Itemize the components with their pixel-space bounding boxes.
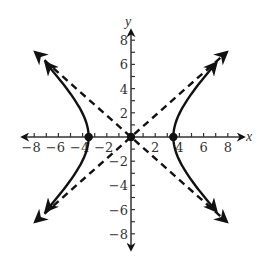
- hyperbola-graph: −8−6−4−224688642−2−4−6−8 x y: [0, 0, 260, 258]
- x-tick-label: 8: [224, 140, 232, 155]
- center-point: [127, 133, 135, 141]
- y-tick-label: −4: [109, 178, 128, 193]
- x-tick-label: −2: [94, 140, 113, 155]
- right-vertex-point: [169, 133, 177, 141]
- x-tick-label: 6: [199, 140, 207, 155]
- x-tick-label: −8: [22, 140, 41, 155]
- y-tick-label: 8: [120, 33, 128, 48]
- y-axis-label: y: [123, 14, 132, 29]
- left-vertex-point: [84, 133, 92, 141]
- y-tick-label: 2: [120, 106, 128, 121]
- x-axis-label: x: [245, 129, 253, 144]
- y-tick-label: −8: [109, 227, 128, 242]
- x-tick-label: 2: [151, 140, 159, 155]
- y-tick-label: −2: [109, 154, 128, 169]
- y-tick-label: 6: [120, 57, 128, 72]
- y-tick-label: 4: [120, 82, 128, 97]
- x-tick-label: −6: [46, 140, 65, 155]
- y-tick-label: −6: [109, 203, 128, 218]
